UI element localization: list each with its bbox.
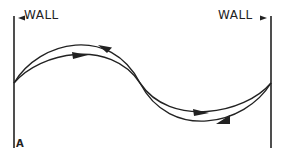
right-wall-label: WALL — [218, 8, 253, 22]
right-wall-arrow-icon — [260, 16, 267, 21]
inner-wave-curve — [14, 54, 271, 111]
inner-bottom-arrow-icon — [193, 109, 209, 116]
outer-wave-curve — [14, 45, 271, 121]
left-wall-label: WALL — [24, 8, 59, 22]
inner-top-arrow-icon — [72, 52, 88, 59]
standing-wave-diagram — [0, 0, 283, 158]
panel-label: A — [16, 138, 24, 149]
